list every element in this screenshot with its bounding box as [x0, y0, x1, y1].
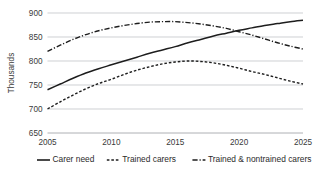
y-tick-label: 650	[29, 129, 43, 138]
y-tick-label: 900	[29, 9, 43, 18]
x-tick-label: 2025	[294, 138, 313, 147]
y-tick-label: 850	[29, 33, 43, 42]
x-tick-label: 2020	[230, 138, 249, 147]
chart-canvas: 650700750800850900 20052010201520202025 …	[0, 0, 315, 171]
legend-item[interactable]: Trained & nontrained carers	[192, 154, 311, 164]
x-tick-label: 2010	[102, 138, 121, 147]
y-tick-label: 800	[29, 57, 43, 66]
x-tick-label: 2005	[38, 138, 57, 147]
y-tick-label: 700	[29, 105, 43, 114]
y-axis-title: Thousands	[7, 53, 16, 94]
legend-label: Trained & nontrained carers	[208, 154, 312, 164]
legend-label: Carer need	[52, 154, 94, 164]
chart-legend: Carer needTrained carersTrained & nontra…	[37, 154, 311, 164]
y-tick-label: 750	[29, 81, 43, 90]
legend-label: Trained carers	[122, 154, 176, 164]
line-chart: 650700750800850900 20052010201520202025 …	[0, 0, 315, 171]
x-tick-label: 2015	[166, 138, 185, 147]
